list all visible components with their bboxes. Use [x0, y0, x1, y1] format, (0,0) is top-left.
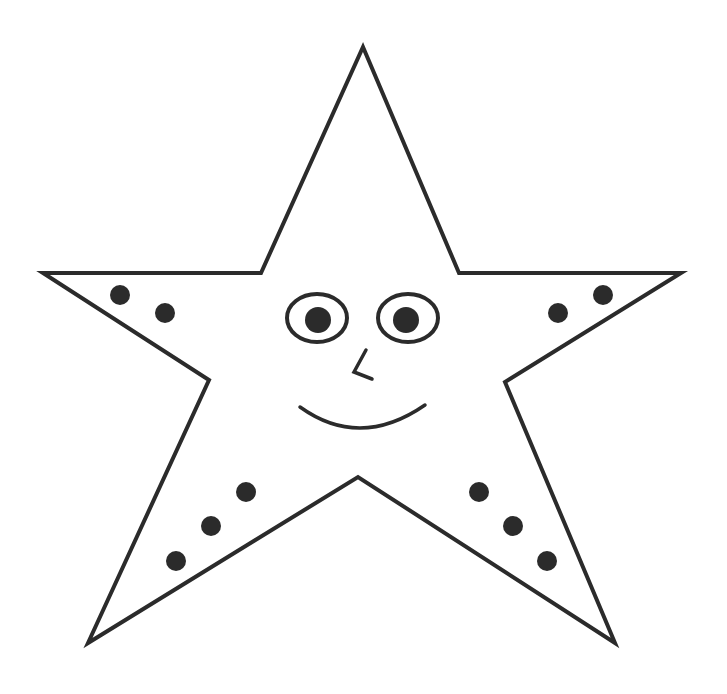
star-illustration — [0, 0, 727, 694]
spot — [537, 551, 557, 571]
spot — [469, 482, 489, 502]
background — [0, 0, 727, 694]
spot — [593, 285, 613, 305]
spot — [166, 551, 186, 571]
spot — [110, 285, 130, 305]
left-pupil — [305, 307, 331, 333]
right-pupil — [393, 307, 419, 333]
spot — [236, 482, 256, 502]
spot — [201, 516, 221, 536]
spot — [503, 516, 523, 536]
spot — [548, 303, 568, 323]
spot — [155, 303, 175, 323]
